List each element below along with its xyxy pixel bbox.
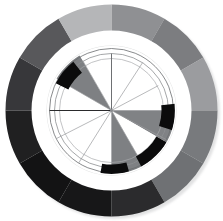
center-hub	[110, 109, 113, 112]
polar-wheel-chart[interactable]	[0, 0, 223, 221]
chart-root	[0, 0, 223, 221]
